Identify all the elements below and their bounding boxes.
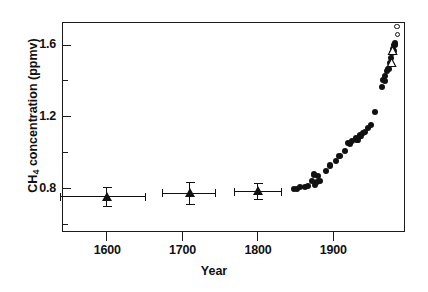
chart-figure: 0.81.21.61600170018001900 CH4 concentrat…: [0, 0, 428, 292]
x-tick-major: [106, 232, 107, 241]
y-axis-title-suffix: concentration (ppmv): [26, 38, 40, 169]
y-axis-title-subscript: 4: [31, 170, 41, 175]
data-point-open-circle: [394, 24, 400, 30]
data-point-filled-triangle: [185, 188, 195, 197]
data-point-filled-circle: [333, 158, 339, 164]
data-point-filled-circle: [372, 109, 378, 115]
y-tick-minor: [62, 80, 68, 81]
x-tick-label: 1600: [77, 243, 137, 257]
y-tick-major: [62, 45, 71, 46]
y-axis-title-prefix: CH: [26, 175, 40, 193]
data-point-filled-triangle: [102, 192, 112, 201]
y-tick-minor: [62, 152, 68, 153]
error-bar-cap: [60, 193, 61, 201]
x-axis-title: Year: [0, 264, 428, 278]
x-tick-label: 1900: [303, 243, 363, 257]
x-tick-major: [333, 232, 334, 241]
error-bar-cap: [103, 206, 112, 207]
x-tick-major: [257, 232, 258, 241]
y-tick-major: [62, 116, 71, 117]
data-point-filled-circle: [336, 153, 342, 159]
error-bar-cap: [254, 199, 263, 200]
error-bar-cap: [103, 187, 112, 188]
error-bar-cap: [254, 183, 263, 184]
error-bar-cap: [234, 188, 235, 196]
x-tick-label: 1700: [153, 243, 213, 257]
data-point-filled-circle: [317, 178, 323, 184]
data-point-filled-circle: [382, 78, 388, 84]
error-bar-cap: [162, 189, 163, 197]
data-point-filled-triangle: [253, 186, 263, 195]
x-tick-label: 1800: [228, 243, 288, 257]
error-bar-cap: [215, 189, 216, 197]
error-bar-cap: [281, 188, 282, 196]
y-tick-major: [62, 188, 71, 189]
plot-frame: [62, 22, 405, 232]
y-tick-minor: [62, 224, 68, 225]
data-point-filled-circle: [323, 168, 329, 174]
error-bar-cap: [186, 204, 195, 205]
y-axis-title: CH4 concentration (ppmv): [26, 21, 41, 211]
data-point-filled-circle: [379, 84, 385, 90]
data-point-filled-circle: [342, 148, 348, 154]
error-bar-cap: [145, 193, 146, 201]
error-bar-cap: [186, 182, 195, 183]
x-tick-major: [182, 232, 183, 241]
